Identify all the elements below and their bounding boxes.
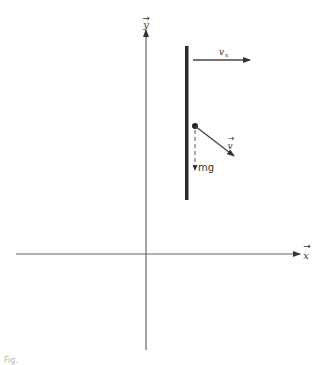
y-axis-label: y [142,19,149,30]
vx-subscript: x [225,51,229,58]
vx-vector: v x [193,47,250,60]
figure-caption: Fig. [4,356,18,365]
vx-label: v [219,47,224,57]
y-axis: → y [142,13,150,350]
v-vector: → v [195,126,235,156]
vertical-rod [185,46,189,200]
x-axis: → x [16,241,311,261]
mg-label: mg [198,162,214,173]
x-axis-label: x [303,250,309,261]
mg-vector: mg [195,130,214,173]
v-label: v [227,141,232,151]
